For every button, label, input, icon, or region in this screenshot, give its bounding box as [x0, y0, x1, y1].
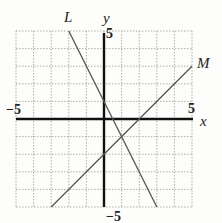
line-M-label: M: [196, 55, 211, 71]
x-axis-label: x: [199, 113, 207, 129]
y-min-tick-label: −5: [106, 209, 121, 223]
y-axis-label: y: [101, 10, 110, 26]
y-max-tick-label: 5: [106, 26, 113, 41]
line-L-label: L: [63, 9, 72, 25]
x-max-tick-label: 5: [188, 101, 195, 116]
x-min-tick-label: −5: [6, 102, 21, 117]
coordinate-graph: L y 5 M x −5 5 −5: [0, 0, 222, 223]
line-M: [51, 66, 192, 207]
